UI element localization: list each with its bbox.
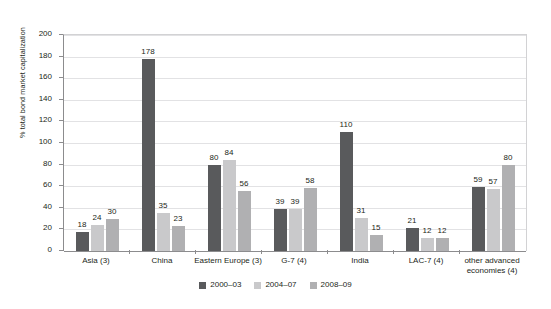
bar-value-label: 56 [232,180,257,188]
bar [472,187,485,251]
legend-label: 2008–09 [321,281,352,289]
bar [274,209,287,251]
bar-value-label: 21 [400,217,425,225]
bar [487,189,500,251]
bar-value-label: 23 [166,215,191,223]
bar-value-label: 178 [136,48,161,56]
bar [421,238,434,251]
y-axis-title: % total bond market capitalization [18,0,27,183]
y-axis-tick-label: 20 [8,224,52,232]
x-axis-category-label: other advancedeconomies (4) [450,256,534,275]
y-axis-tick-label: 80 [8,160,52,168]
bar-value-label: 84 [217,149,242,157]
bar [91,225,104,251]
x-axis-label-line: other advanced [450,256,534,266]
legend-item[interactable]: 2008–09 [310,281,352,289]
bar [223,160,236,251]
legend-color-swatch [199,282,206,289]
y-axis-tick-label: 200 [8,30,52,38]
x-axis-tick-mark [393,250,394,254]
x-axis-tick-mark [261,250,262,254]
bar-value-label: 80 [496,154,521,162]
y-axis-tick-label: 0 [8,246,52,254]
y-axis-tick-label: 160 [8,73,52,81]
y-axis-tick-label: 140 [8,95,52,103]
legend-color-swatch [254,282,261,289]
bar [76,232,89,251]
y-axis-tick-label: 60 [8,181,52,189]
legend-item[interactable]: 2004–07 [254,281,296,289]
bar [436,238,449,251]
bar-value-label: 30 [100,208,125,216]
bar [340,132,353,251]
bar [238,191,251,251]
gridline [64,78,526,79]
legend-label: 2004–07 [265,281,296,289]
x-axis-tick-mark [195,250,196,254]
x-axis-tick-mark [129,250,130,254]
legend-item[interactable]: 2000–03 [199,281,241,289]
x-axis-tick-mark [459,250,460,254]
x-axis-tick-mark [327,250,328,254]
bar [172,226,185,251]
x-axis-baseline [64,251,526,252]
bar-value-label: 12 [430,227,455,235]
bar-value-label: 31 [349,207,374,215]
bar [502,165,515,251]
bar [142,59,155,251]
gridline [64,186,526,187]
bar [370,235,383,251]
plot-area: 1824301783523808456393958110311521121259… [63,34,527,251]
bar-value-label: 15 [364,224,389,232]
y-axis-tick-label: 40 [8,203,52,211]
bar [304,188,317,251]
bar [355,218,368,251]
bar-value-label: 35 [151,202,176,210]
gridline [64,143,526,144]
bar-value-label: 58 [298,177,323,185]
gridline [64,100,526,101]
bar [208,165,221,251]
legend-label: 2000–03 [210,281,241,289]
bar [106,219,119,251]
x-axis-label-line: economies (4) [450,266,534,276]
gridline [64,35,526,36]
gridline [64,57,526,58]
bar-value-label: 110 [334,121,359,129]
chart-legend: 2000–032004–072008–09 [0,281,551,289]
y-axis-tick-label: 180 [8,52,52,60]
legend-color-swatch [310,282,317,289]
y-axis-tick-label: 120 [8,116,52,124]
y-axis-tick-label: 100 [8,138,52,146]
bar [289,209,302,251]
gridline [64,165,526,166]
gridline [64,121,526,122]
bar-chart-figure: % total bond market capitalization 02040… [0,0,551,309]
